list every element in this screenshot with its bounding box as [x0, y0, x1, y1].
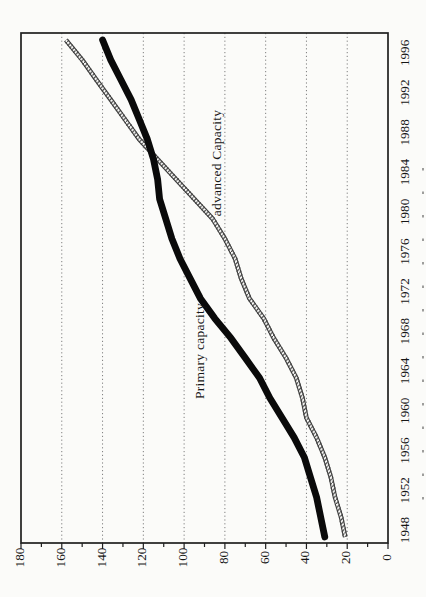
year-axis-tick-label: 1964 [397, 357, 412, 384]
value-axis-tick-label: 100 [175, 547, 190, 567]
plot-border [21, 33, 388, 543]
value-axis-tick-label: 80 [216, 551, 231, 565]
year-axis-tick-label: 1948 [397, 516, 412, 543]
value-axis-tick-label: 20 [338, 551, 353, 565]
year-axis-tick-label: 1968 [397, 318, 412, 345]
year-axis-tick-label: 1972 [397, 278, 412, 304]
year-axis-tick-label: 1984 [397, 159, 412, 186]
value-axis-tick-label: 180 [12, 547, 27, 567]
year-axis-tick-label: 1996 [397, 39, 412, 66]
year-axis-tick-label: 1956 [397, 437, 412, 464]
rotated-line-chart: 0204060801001201401601801948195219561960… [0, 0, 426, 597]
year-axis-tick-label: 1960 [397, 397, 412, 424]
year-axis-tick-label: 1976 [397, 238, 412, 265]
value-axis-tick-label: 140 [94, 547, 109, 567]
value-axis-tick-label: 60 [257, 551, 272, 565]
year-axis-tick-label: 1952 [397, 477, 412, 503]
scanned-page: 0204060801001201401601801948195219561960… [0, 0, 426, 597]
series-primary-line [103, 40, 325, 537]
value-axis-tick-label: 120 [134, 547, 149, 567]
value-axis-tick-label: 40 [297, 551, 312, 565]
year-axis-tick-label: 1992 [397, 79, 412, 105]
year-axis-tick-label: 1988 [397, 119, 412, 146]
year-axis-tick-label: 1980 [397, 198, 412, 225]
capacity-chart-figure: 0204060801001201401601801948195219561960… [0, 0, 426, 597]
value-axis-tick-label: 160 [53, 547, 68, 567]
value-axis-tick-label: 0 [379, 554, 394, 561]
